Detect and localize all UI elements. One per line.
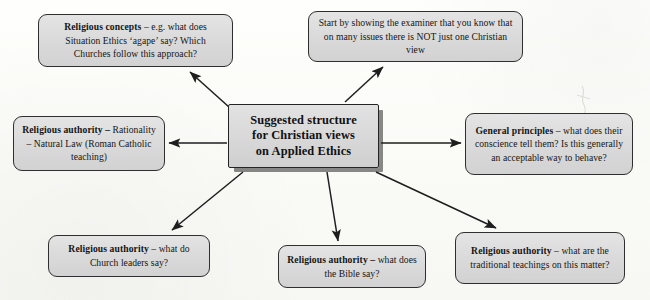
node-start-advice[interactable]: Start by showing the examiner that you k… (308, 11, 523, 62)
node-general-principles-text: General principles – what does their con… (473, 124, 625, 165)
node-bible-authority-lead: Religious authority – (287, 254, 375, 265)
node-traditional-teachings-lead: Religious authority (471, 245, 552, 256)
node-religious-concepts-lead: Religious concepts (64, 21, 141, 32)
central-node-suggested-structure[interactable]: Suggested structure for Christian views … (228, 104, 379, 168)
diagram-canvas: Religious concepts – e.g. what does Situ… (0, 0, 650, 300)
central-node-line3: on Applied Ethics (256, 144, 351, 158)
node-religious-authority-rationality-text: Religious authority – Rationality – Natu… (21, 123, 157, 164)
arrow-hub-to-start (345, 67, 383, 102)
node-church-leaders-lead: Religious authority (68, 243, 149, 254)
node-religious-authority-rationality-lead: Religious authority – (22, 124, 110, 135)
node-general-principles-lead: General principles (476, 125, 554, 136)
central-node-line2: for Christian views (252, 128, 355, 142)
arrow-hub-to-concepts (190, 72, 229, 107)
arrow-hub-to-bible (327, 172, 338, 241)
arrow-hub-to-leaders (172, 172, 243, 230)
node-traditional-teachings-text: Religious authority – what are the tradi… (463, 244, 617, 271)
node-religious-concepts[interactable]: Religious concepts – e.g. what does Situ… (38, 14, 233, 67)
node-bible-authority[interactable]: Religious authority – what does the Bibl… (278, 245, 426, 288)
node-church-leaders-text: Religious authority – what do Church lea… (56, 242, 202, 269)
node-religious-authority-rationality[interactable]: Religious authority – Rationality – Natu… (13, 116, 165, 171)
node-bible-authority-text: Religious authority – what does the Bibl… (286, 253, 418, 280)
node-religious-concepts-text: Religious concepts – e.g. what does Situ… (46, 20, 225, 61)
node-general-principles[interactable]: General principles – what does their con… (465, 113, 633, 175)
arrow-hub-to-traditional (376, 172, 496, 228)
node-start-advice-text: Start by showing the examiner that you k… (316, 16, 515, 57)
node-traditional-teachings[interactable]: Religious authority – what are the tradi… (455, 232, 625, 284)
node-church-leaders[interactable]: Religious authority – what do Church lea… (48, 235, 210, 277)
central-node-text: Suggested structure for Christian views … (250, 113, 357, 160)
central-node-line1: Suggested structure (250, 113, 357, 127)
